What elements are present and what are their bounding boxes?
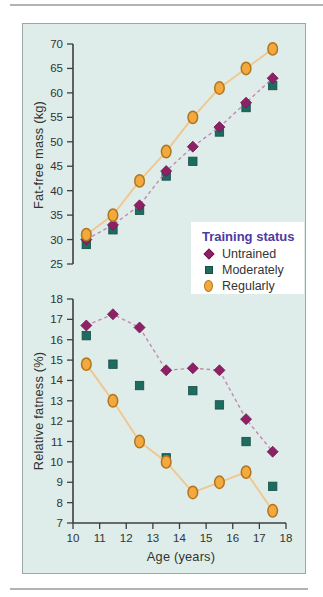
svg-text:18: 18	[50, 293, 63, 305]
svg-text:16: 16	[226, 532, 239, 544]
svg-text:13: 13	[146, 532, 159, 544]
svg-text:60: 60	[50, 87, 63, 99]
svg-text:12: 12	[50, 415, 63, 427]
svg-text:40: 40	[50, 185, 63, 197]
svg-text:11: 11	[94, 532, 106, 544]
bottom-divider	[10, 588, 308, 590]
svg-text:30: 30	[50, 234, 63, 246]
svg-text:10: 10	[67, 532, 80, 544]
series-untrained	[81, 309, 278, 457]
svg-text:15: 15	[50, 354, 63, 366]
square-marker-icon	[202, 266, 215, 274]
svg-text:18: 18	[280, 532, 293, 544]
svg-text:25: 25	[50, 258, 63, 270]
legend-label-regularly: Regularly	[222, 279, 275, 293]
svg-text:17: 17	[50, 313, 63, 325]
age-axis-label: Age (years)	[147, 549, 215, 564]
legend-item-untrained: Untrained	[202, 247, 304, 261]
svg-text:70: 70	[50, 38, 63, 50]
svg-text:17: 17	[253, 532, 266, 544]
top-divider	[10, 4, 323, 6]
chart-1: 789101112131415161718101112131415161718	[50, 293, 292, 544]
fat-free-mass-axis-label: Fat-free mass (kg)	[31, 101, 46, 209]
diamond-marker-icon	[202, 250, 215, 258]
legend-item-regularly: Regularly	[202, 279, 304, 293]
svg-text:55: 55	[50, 111, 63, 123]
svg-text:7: 7	[57, 517, 63, 529]
svg-text:14: 14	[50, 374, 63, 386]
svg-text:9: 9	[57, 476, 63, 488]
svg-text:35: 35	[50, 209, 63, 221]
circle-marker-icon	[202, 280, 215, 292]
legend-label-untrained: Untrained	[222, 247, 276, 261]
svg-text:11: 11	[51, 436, 63, 448]
svg-text:65: 65	[50, 62, 63, 74]
legend-label-moderately: Moderately	[222, 263, 284, 277]
svg-text:15: 15	[200, 532, 213, 544]
legend-item-moderately: Moderately	[202, 263, 304, 277]
relative-fatness-axis-label: Relative fatness (%)	[31, 352, 46, 471]
svg-text:45: 45	[50, 160, 63, 172]
svg-text:12: 12	[120, 532, 133, 544]
svg-text:10: 10	[50, 456, 63, 468]
chart-panel: 2530354045505560657078910111213141516171…	[22, 23, 306, 574]
series-regularly	[82, 43, 278, 241]
svg-text:8: 8	[57, 497, 63, 509]
legend-title: Training status	[202, 229, 304, 244]
charts-canvas: 2530354045505560657078910111213141516171…	[23, 24, 305, 573]
svg-text:16: 16	[50, 334, 63, 346]
svg-text:50: 50	[50, 136, 63, 148]
legend: Training status Untrained Moderately Reg…	[191, 222, 304, 294]
svg-text:14: 14	[173, 532, 186, 544]
svg-text:13: 13	[50, 395, 63, 407]
page: 2530354045505560657078910111213141516171…	[0, 0, 323, 597]
